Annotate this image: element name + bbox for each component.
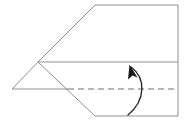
- fold-diagram-svg: [0, 0, 187, 132]
- fold-diagram-container: [0, 0, 187, 132]
- diagram-background: [0, 0, 187, 132]
